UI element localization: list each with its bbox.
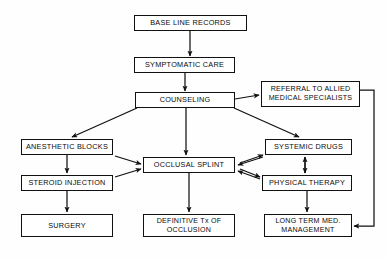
edge-systemic-to-splint bbox=[238, 157, 263, 165]
edge-counseling-to-systemic bbox=[234, 108, 299, 137]
node-symptomatic-care[interactable]: SYMPTOMATIC CARE bbox=[134, 57, 235, 73]
node-occlusal-splint[interactable]: OCCLUSAL SPLINT bbox=[143, 157, 235, 173]
edge-anesthetic-to-splint bbox=[115, 156, 141, 164]
node-counseling[interactable]: COUNSELING bbox=[135, 92, 235, 108]
flowchart-canvas: BASE LINE RECORDS SYMPTOMATIC CARE COUNS… bbox=[0, 0, 386, 258]
edge-counseling-to-anesthetic bbox=[72, 108, 137, 137]
node-surgery[interactable]: SURGERY bbox=[21, 214, 113, 237]
node-physical-therapy[interactable]: PHYSICAL THERAPY bbox=[262, 175, 352, 191]
edge-steroid-to-splint bbox=[115, 169, 141, 177]
node-referral-to-allied-medical-specialists[interactable]: REFERRAL TO ALLIED MEDICAL SPECIALISTS bbox=[261, 81, 360, 107]
node-systemic-drugs[interactable]: SYSTEMIC DRUGS bbox=[265, 139, 352, 155]
node-steroid-injection[interactable]: STEROID INJECTION bbox=[21, 175, 113, 191]
edge-referral-to-longterm bbox=[354, 90, 374, 226]
edge-splint-to-systemic bbox=[240, 155, 263, 163]
node-definitive-tx-of-occlusion[interactable]: DEFINITIVE Tx OF OCCLUSION bbox=[143, 214, 235, 237]
edge-counseling-to-referral bbox=[235, 95, 259, 99]
node-base-line-records[interactable]: BASE LINE RECORDS bbox=[134, 15, 247, 31]
node-anesthetic-blocks[interactable]: ANESTHETIC BLOCKS bbox=[21, 139, 113, 155]
node-long-term-med-management[interactable]: LONG TERM MED. MANAGEMENT bbox=[264, 214, 352, 237]
